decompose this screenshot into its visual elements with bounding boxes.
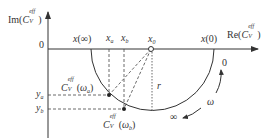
point-a-label: CeffV(ωa) (61, 81, 93, 94)
point-b (122, 107, 126, 111)
omega-label: ω (207, 97, 214, 107)
ya-sub: a (40, 94, 43, 100)
yb-sub: b (40, 108, 43, 114)
xa-sub: a (110, 38, 113, 44)
pb-sup: eff (110, 113, 116, 119)
radius-label: r (157, 81, 161, 91)
x-label-sub: V (248, 33, 252, 39)
y-a-label: ya (36, 89, 43, 100)
x-a-label: xa (106, 33, 113, 44)
origin-label: 0 (39, 40, 44, 50)
pa-sup: eff (68, 76, 74, 82)
x-zero-arg: (0) (205, 33, 217, 44)
omega-arrow-up (216, 70, 221, 93)
x-label-suffix: ) (257, 29, 260, 40)
pa-var: C (61, 82, 68, 93)
x-axis-label: Re(CeffV) (227, 28, 260, 40)
x-label-var: C (241, 29, 248, 40)
radius-to-a (109, 49, 151, 95)
y-label-prefix: Im( (8, 14, 22, 25)
x-label-prefix: Re( (227, 29, 241, 40)
freq-infinity-label: ∞ (170, 112, 177, 122)
pa-close: ) (90, 82, 93, 93)
x-b-label: xb (121, 33, 128, 44)
xb-sub: b (125, 38, 128, 44)
center-point-x0 (149, 47, 154, 52)
point-b-label: CeffV(ωb) (103, 118, 135, 131)
pa-sub: V (68, 86, 72, 92)
point-a (107, 93, 111, 97)
y-label-suffix: ) (38, 14, 41, 25)
x0-sub: 0 (152, 39, 155, 45)
x-zero-label: x(0) (201, 34, 217, 44)
freq-zero-label: 0 (222, 58, 227, 68)
nyquist-diagram: Im(CeffV) 0 Re(CeffV) x(∞) xa xb x0 x(0)… (0, 0, 272, 138)
x-inf-arg: (∞) (77, 33, 91, 44)
y-label-var: C (22, 14, 29, 25)
y-label-sub: V (29, 18, 33, 24)
omega-arrow-down (183, 108, 201, 118)
y-label-sup: eff (29, 8, 35, 14)
semicircle-curve (91, 49, 214, 110)
y-b-label: yb (36, 103, 43, 114)
pb-var: C (103, 119, 110, 130)
pb-sub: V (110, 123, 114, 129)
x-0-label: x0 (148, 34, 155, 45)
x-label-sup: eff (248, 23, 254, 29)
y-axis-label: Im(CeffV) (8, 13, 41, 25)
radius-to-b (124, 49, 151, 109)
x-infinity-label: x(∞) (73, 34, 91, 44)
pb-close: ) (132, 119, 135, 130)
